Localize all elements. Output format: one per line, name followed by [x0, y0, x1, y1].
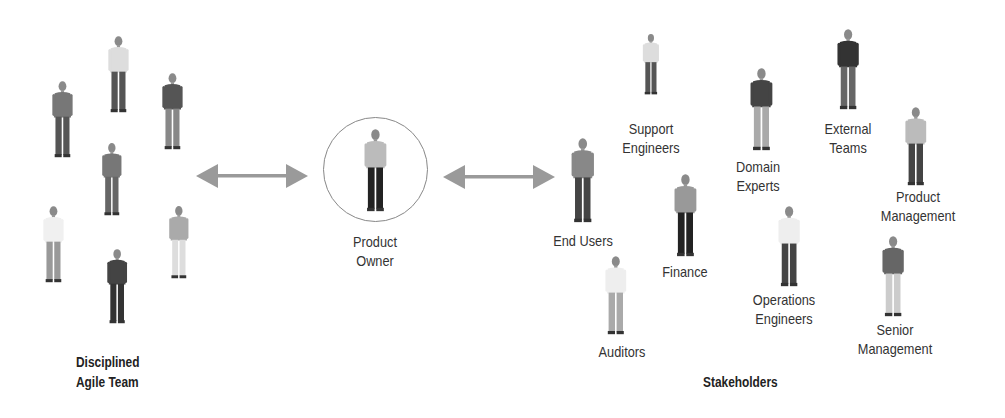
double-arrow-left — [196, 161, 311, 191]
product-owner-label: Product Owner — [333, 232, 418, 270]
person-icon — [776, 205, 802, 287]
person-icon — [100, 142, 124, 216]
person-icon — [160, 72, 185, 150]
stakeholder-label: Senior Management — [844, 320, 946, 358]
double-arrow-right — [443, 162, 558, 192]
stakeholder-label: Auditors — [571, 342, 673, 361]
stakeholder-label: End Users — [532, 231, 634, 250]
person-icon — [903, 106, 929, 186]
person-icon — [641, 33, 661, 95]
person-icon — [603, 255, 629, 335]
person-icon — [672, 173, 699, 257]
stakeholder-label: Product Management — [867, 187, 969, 225]
person-icon — [106, 35, 131, 113]
person-icon — [105, 248, 129, 324]
person-icon — [835, 28, 861, 110]
person-icon — [362, 128, 389, 212]
stakeholders-title: Stakeholders — [703, 372, 778, 392]
person-icon — [41, 205, 66, 283]
person-icon — [748, 67, 775, 151]
person-icon — [50, 80, 75, 158]
person-icon — [569, 137, 597, 223]
person-icon — [167, 205, 191, 279]
stakeholder-label: Operations Engineers — [733, 290, 835, 328]
team-title: Disciplined Agile Team — [76, 352, 139, 392]
person-icon — [880, 235, 906, 317]
stakeholder-label: External Teams — [797, 119, 899, 157]
stakeholder-label: Domain Experts — [707, 157, 809, 195]
stakeholder-label: Support Engineers — [600, 119, 702, 157]
stakeholder-label: Finance — [634, 262, 736, 281]
